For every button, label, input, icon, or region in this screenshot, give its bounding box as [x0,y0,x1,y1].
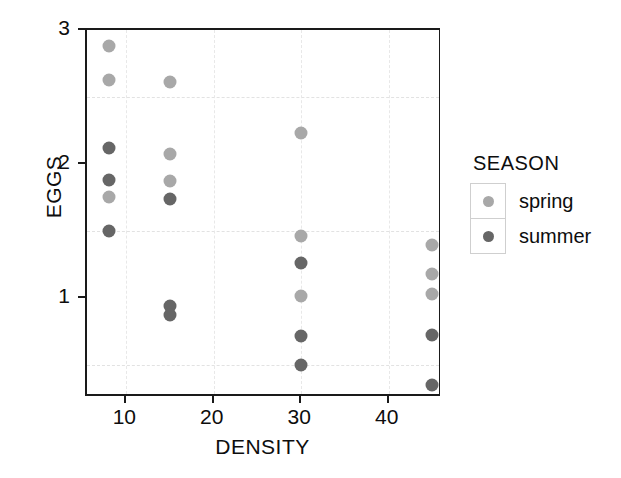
x-tick-label: 20 [187,406,237,427]
legend-dot-icon [483,231,494,242]
data-point-spring [102,40,115,53]
data-point-spring [426,267,439,280]
gridline-horizontal [87,365,439,366]
data-point-spring [426,239,439,252]
x-axis-label: DENSITY [85,435,440,459]
y-tick-mark [78,28,85,30]
y-axis-label: EGGS [42,127,66,247]
x-tick-mark [124,396,126,403]
data-point-summer [102,224,115,237]
plot-area [85,28,440,396]
legend-entries: springsummer [470,184,591,254]
gridline-vertical [214,30,215,394]
y-tick-mark [78,162,85,164]
data-point-spring [164,76,177,89]
data-point-summer [164,309,177,322]
x-tick-mark [299,396,301,403]
legend-swatch-spring [470,183,506,219]
data-point-spring [295,230,308,243]
y-tick-mark [78,296,85,298]
data-point-spring [164,175,177,188]
data-point-spring [426,287,439,300]
data-point-spring [102,73,115,86]
legend-item-summer[interactable]: summer [470,219,591,254]
gridline-horizontal [87,231,439,232]
data-point-spring [295,127,308,140]
x-tick-label: 30 [274,406,324,427]
data-point-spring [102,191,115,204]
x-tick-mark [387,396,389,403]
data-point-summer [295,256,308,269]
legend: SEASON springsummer [470,152,591,254]
data-point-summer [426,378,439,391]
legend-dot-icon [483,196,494,207]
data-point-summer [426,329,439,342]
data-point-spring [295,290,308,303]
legend-item-spring[interactable]: spring [470,184,591,219]
x-tick-label: 10 [99,406,149,427]
legend-swatch-summer [470,218,506,254]
data-point-summer [102,141,115,154]
x-tick-label: 40 [362,406,412,427]
data-point-spring [164,148,177,161]
legend-label: spring [519,190,573,213]
x-tick-mark [212,396,214,403]
legend-label: summer [519,225,591,248]
gridline-vertical [126,30,127,394]
data-point-summer [295,330,308,343]
y-tick-label: 3 [30,17,70,38]
data-point-summer [102,173,115,186]
data-point-summer [164,192,177,205]
data-point-summer [295,358,308,371]
scatter-plot-figure: 123 10203040 EGGS DENSITY SEASON springs… [0,0,621,478]
gridline-vertical [389,30,390,394]
gridline-horizontal [87,97,439,98]
y-tick-label: 1 [30,285,70,306]
legend-title: SEASON [473,152,591,175]
